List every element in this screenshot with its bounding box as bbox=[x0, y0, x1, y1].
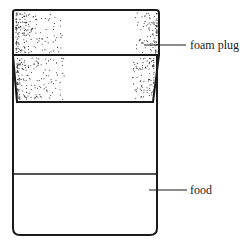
foam-plug-label: foam plug bbox=[190, 38, 239, 52]
foam-stipple bbox=[15, 12, 157, 100]
food-label: food bbox=[190, 183, 212, 197]
vial-diagram: foam plug food bbox=[0, 0, 242, 246]
container-outline bbox=[13, 55, 157, 235]
